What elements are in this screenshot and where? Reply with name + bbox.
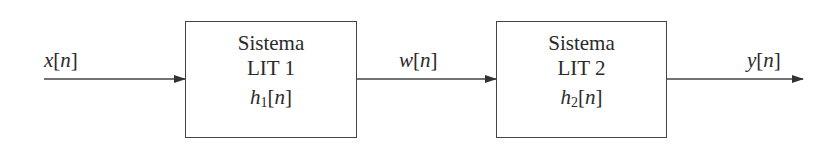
bracket-close: ]: [285, 85, 292, 109]
bracket-open: [: [413, 48, 420, 72]
bracket-close: ]: [774, 48, 781, 72]
block-2-title: Sistema: [497, 32, 666, 54]
impulse-fn: h: [250, 85, 261, 109]
input-signal-label: x[n]: [44, 49, 78, 71]
impulse-fn: h: [561, 85, 572, 109]
block-1-impulse-response: h1[n]: [186, 86, 356, 114]
signal-arrows: [0, 0, 830, 147]
block-2-subtitle: LIT 2: [497, 57, 666, 79]
bracket-close: ]: [596, 85, 603, 109]
block-1-subtitle: LIT 1: [186, 57, 356, 79]
output-signal-name: y: [747, 48, 756, 72]
input-signal-name: x: [44, 48, 53, 72]
impulse-arg: n: [585, 85, 596, 109]
lti-system-2-block: Sistema LIT 2 h2[n]: [496, 21, 667, 138]
intermediate-signal-label: w[n]: [399, 49, 438, 71]
impulse-subscript: 2: [571, 95, 578, 110]
output-signal-label: y[n]: [747, 49, 781, 71]
block-2-impulse-response: h2[n]: [497, 86, 666, 114]
bracket-open: [: [578, 85, 585, 109]
output-signal-arg: n: [763, 48, 774, 72]
intermediate-signal-arg: n: [420, 48, 431, 72]
intermediate-signal-name: w: [399, 48, 413, 72]
input-signal-arg: n: [60, 48, 71, 72]
bracket-close: ]: [431, 48, 438, 72]
impulse-arg: n: [275, 85, 286, 109]
block-1-title: Sistema: [186, 32, 356, 54]
impulse-subscript: 1: [261, 95, 268, 110]
lti-system-1-block: Sistema LIT 1 h1[n]: [185, 21, 357, 138]
bracket-open: [: [268, 85, 275, 109]
bracket-close: ]: [71, 48, 78, 72]
